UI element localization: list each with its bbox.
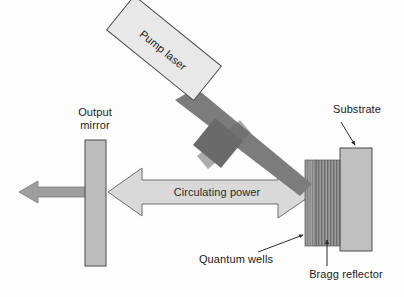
substrate-leader — [341, 122, 355, 145]
substrate-label: Substrate — [318, 103, 396, 116]
quantum-wells-label: Quantum wells — [188, 253, 284, 266]
output-mirror — [85, 140, 106, 266]
output-beam-arrow — [19, 181, 92, 203]
output-mirror-label-line2: mirror — [61, 119, 129, 132]
quantum-wells-layer — [305, 160, 316, 246]
substrate-block — [340, 148, 372, 251]
bragg-reflector-label: Bragg reflector — [296, 268, 396, 281]
diagram-canvas: Pump laser Output mirror Circulating pow… — [0, 0, 404, 297]
circulating-power-label: Circulating power — [142, 186, 292, 199]
bragg-reflector-block — [316, 160, 340, 246]
output-mirror-label-line1: Output — [61, 106, 129, 119]
quantum-wells-leader — [258, 235, 303, 252]
output-mirror-label: Output mirror — [61, 106, 129, 132]
